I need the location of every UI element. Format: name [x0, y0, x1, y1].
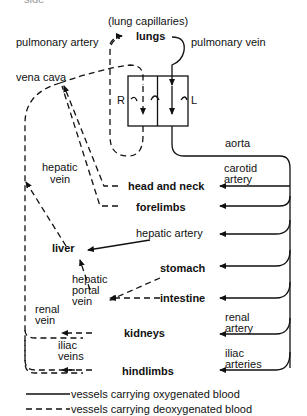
iliac-arteries-label-2: arteries: [225, 359, 262, 370]
forelimbs-label: forelimbs: [136, 202, 186, 213]
kidneys-label: kidneys: [124, 328, 165, 339]
vena-cava-label: vena cava: [16, 72, 66, 83]
legend-oxygenated: vessels carrying oxygenated blood: [71, 389, 240, 400]
hepatic-artery-label: hepatic artery: [136, 228, 203, 239]
lungs-label: lungs: [136, 31, 165, 42]
intestine-label: intestine: [160, 293, 205, 304]
lung-capillaries-label: (lung capillaries): [108, 16, 188, 27]
pulmonary-artery-label: pulmonary artery: [16, 37, 99, 48]
iliac-veins-label-2: veins: [58, 351, 84, 362]
pulmonary-vein-label: pulmonary vein: [191, 37, 266, 48]
caption-fragment: side: [24, 0, 44, 5]
liver-label: liver: [52, 243, 75, 254]
stomach-label: stomach: [160, 263, 205, 274]
heart-right-label: R: [117, 95, 125, 106]
head-and-neck-label: head and neck: [128, 181, 204, 192]
renal-vein-label-2: vein: [35, 315, 55, 326]
hepatic-vein-label-2: vein: [50, 174, 70, 185]
aorta-label: aorta: [225, 138, 250, 149]
hepatic-portal-vein-label-3: vein: [72, 296, 92, 307]
heart-left-label: L: [191, 95, 197, 106]
renal-artery-label-2: artery: [225, 323, 253, 334]
carotid-artery-label-2: artery: [224, 174, 252, 185]
hindlimbs-label: hindlimbs: [122, 366, 174, 377]
hepatic-vein-label-1: hepatic: [42, 162, 77, 173]
legend-deoxygenated: vessels carrying deoxygenated blood: [71, 404, 252, 415]
